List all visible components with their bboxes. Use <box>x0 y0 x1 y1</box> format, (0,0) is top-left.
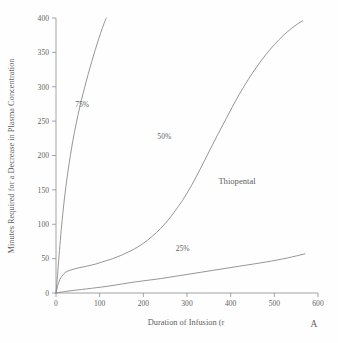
curve-labels: 75%50%25% <box>75 100 190 253</box>
x-tick-label: 200 <box>138 299 150 308</box>
drug-annotation-label: Thiopental <box>218 176 256 186</box>
x-tick-label: 100 <box>94 299 106 308</box>
y-tick-label: 250 <box>38 117 50 126</box>
y-tick-label: 100 <box>38 220 50 229</box>
chart-figure: Minutes Required for a Decrease in Plasm… <box>0 0 338 343</box>
x-tick-label: 400 <box>225 299 237 308</box>
x-axis-title: Duration of Infusion (r <box>148 318 225 327</box>
y-tick-label: 350 <box>38 48 50 57</box>
panel-label: A <box>311 319 318 329</box>
x-tick-label: 600 <box>312 299 324 308</box>
y-axis-title: Minutes Required for a Decrease in Plasm… <box>7 58 16 254</box>
y-tick-label: 400 <box>38 14 50 23</box>
curve-25pct <box>56 254 305 293</box>
curve-label-75pct: 75% <box>75 100 90 109</box>
x-axis-ticks: 0100200300400500600 <box>54 293 324 308</box>
duration-of-infusion-line-chart: Minutes Required for a Decrease in Plasm… <box>0 0 338 343</box>
y-tick-label: 50 <box>41 254 49 263</box>
y-tick-label: 200 <box>38 151 50 160</box>
curve-75pct <box>56 18 107 293</box>
curve-label-25pct: 25% <box>176 244 191 253</box>
x-tick-label: 500 <box>269 299 281 308</box>
x-tick-label: 300 <box>181 299 193 308</box>
y-tick-label: 300 <box>38 83 50 92</box>
x-tick-label: 0 <box>54 299 58 308</box>
y-tick-label: 150 <box>38 186 50 195</box>
curve-label-50pct: 50% <box>157 132 172 141</box>
y-tick-label: 0 <box>45 289 49 298</box>
y-axis-ticks: 050100150200250300350400 <box>38 14 56 298</box>
